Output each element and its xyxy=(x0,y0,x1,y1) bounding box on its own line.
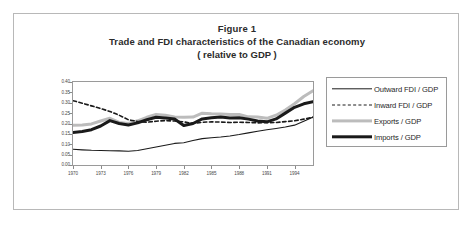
x-axis-tick-mark xyxy=(211,166,212,169)
x-axis-tick-mark xyxy=(101,166,102,169)
legend-swatch-solid-thick xyxy=(331,131,373,143)
chart-legend: Outward FDI / GDPInward FDI / GDPExports… xyxy=(326,77,447,147)
y-axis-tick-label: 0.25 xyxy=(44,111,70,116)
y-axis-tick-mark xyxy=(69,144,72,145)
x-axis-tick-mark xyxy=(184,166,185,169)
legend-item-label: Outward FDI / GDP xyxy=(373,85,438,94)
y-axis-tick-mark xyxy=(69,103,72,104)
y-axis-tick-label: 0.15 xyxy=(44,131,70,136)
y-axis-tick-mark xyxy=(69,134,72,135)
legend-swatch-dashed xyxy=(331,99,373,111)
x-axis-tick-mark xyxy=(267,166,268,169)
y-axis-tick-label: 0.20 xyxy=(44,121,70,126)
y-axis-tick-label: 0.35 xyxy=(44,90,70,95)
y-axis-tick-mark xyxy=(69,82,72,83)
legend-item[interactable]: Exports / GDP xyxy=(331,113,444,129)
x-axis-tick-mark xyxy=(295,166,296,169)
y-axis-tick-mark xyxy=(69,113,72,114)
legend-line-icon xyxy=(332,105,372,106)
y-axis-tick-mark xyxy=(69,92,72,93)
legend-swatch-solid-thin xyxy=(331,83,373,95)
y-axis-tick-label: 0.30 xyxy=(44,100,70,105)
y-axis-tick-mark xyxy=(69,124,72,125)
x-axis-tick-mark xyxy=(128,166,129,169)
x-axis-tick-label: 1991 xyxy=(252,171,282,176)
legend-item-label: Imports / GDP xyxy=(373,133,421,142)
x-axis-tick-label: 1982 xyxy=(169,171,199,176)
legend-line-icon xyxy=(332,135,372,138)
y-axis-tick-label: 0.05 xyxy=(44,152,70,157)
x-axis-tick-mark xyxy=(73,166,74,169)
plot-lines xyxy=(73,82,313,165)
y-axis-tick-mark xyxy=(69,165,72,166)
legend-line-icon xyxy=(332,88,372,89)
legend-item[interactable]: Imports / GDP xyxy=(331,129,444,145)
legend-item-label: Exports / GDP xyxy=(373,117,421,126)
legend-item[interactable]: Outward FDI / GDP xyxy=(331,81,444,97)
legend-item-label: Inward FDI / GDP xyxy=(373,101,432,110)
legend-swatch-solid-gray xyxy=(331,115,373,127)
legend-line-icon xyxy=(332,119,372,122)
y-axis-tick-label: 0.00 xyxy=(44,162,70,167)
x-axis-tick-label: 1988 xyxy=(224,171,254,176)
x-axis-tick-label: 1973 xyxy=(86,171,116,176)
x-axis-tick-label: 1970 xyxy=(58,171,88,176)
x-axis-tick-label: 1976 xyxy=(113,171,143,176)
legend-item[interactable]: Inward FDI / GDP xyxy=(331,97,444,113)
x-axis-tick-mark xyxy=(239,166,240,169)
figure-title-block: Figure 1 Trade and FDI characteristics o… xyxy=(14,22,460,61)
y-axis-tick-label: 0.40 xyxy=(44,79,70,84)
figure-number: Figure 1 xyxy=(14,22,460,35)
chart-area: 0.000.050.100.150.200.250.300.350.40 197… xyxy=(31,74,321,186)
figure-title: Trade and FDI characteristics of the Can… xyxy=(14,35,460,48)
figure-subtitle: ( relative to GDP ) xyxy=(14,48,460,61)
x-axis-tick-label: 1979 xyxy=(141,171,171,176)
x-axis-tick-label: 1994 xyxy=(280,171,310,176)
x-axis-tick-mark xyxy=(156,166,157,169)
y-axis-tick-label: 0.10 xyxy=(44,142,70,147)
x-axis-tick-label: 1985 xyxy=(196,171,226,176)
y-axis-tick-mark xyxy=(69,155,72,156)
figure-container: Figure 1 Trade and FDI characteristics o… xyxy=(13,13,459,210)
